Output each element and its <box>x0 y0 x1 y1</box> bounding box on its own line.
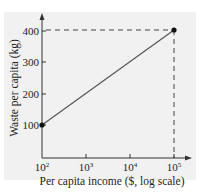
y-axis-arrow-icon <box>40 13 45 20</box>
chart: 400 300 200 100 102 103 104 105 Waste pe… <box>0 0 200 192</box>
y-axis-label: Waste per capita (kg) <box>8 39 21 137</box>
y-ticks <box>42 31 46 125</box>
x-tick-10-4: 104 <box>123 161 138 173</box>
data-point-end <box>171 27 176 32</box>
y-tick-300: 300 <box>23 56 40 68</box>
y-tick-100: 100 <box>23 119 40 131</box>
x-tick-10-5: 105 <box>167 161 182 173</box>
x-ticks <box>86 154 174 158</box>
y-tick-200: 200 <box>23 88 40 100</box>
data-point-start <box>39 122 44 127</box>
x-axis-label: Per capita income ($, log scale) <box>40 175 185 188</box>
x-axis-arrow-icon <box>185 156 192 161</box>
x-tick-10-2: 102 <box>35 161 50 173</box>
x-tick-10-3: 103 <box>79 161 94 173</box>
data-line <box>42 30 174 125</box>
y-tick-400: 400 <box>23 25 40 37</box>
